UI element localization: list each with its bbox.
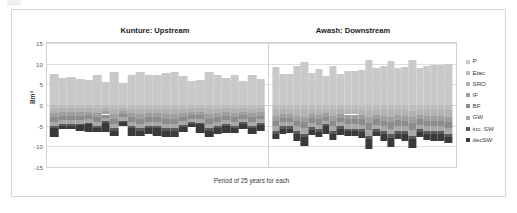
legend-item[interactable]: BF [466, 101, 514, 112]
bar-segment-decsw[interactable] [438, 134, 445, 140]
bar-segment-p[interactable] [402, 67, 409, 105]
bar-slot[interactable] [344, 43, 351, 167]
bar-segment-decsw[interactable] [387, 138, 394, 147]
bar-segment-p[interactable] [110, 72, 119, 105]
bar-slot[interactable] [248, 43, 257, 167]
bar-segment-p[interactable] [196, 80, 205, 105]
bar-segment-decsw[interactable] [344, 131, 351, 136]
legend-item[interactable]: GW [466, 112, 514, 123]
bar-slot[interactable] [59, 43, 68, 167]
bar-segment-p[interactable] [344, 71, 351, 105]
bar-segment-p[interactable] [205, 72, 214, 105]
bar-slot[interactable] [205, 43, 214, 167]
bar-slot[interactable] [170, 43, 179, 167]
legend-item[interactable]: P [466, 56, 514, 67]
bar-segment-decsw[interactable] [330, 134, 337, 140]
bar-segment-decsw[interactable] [110, 131, 119, 136]
bar-segment-p[interactable] [127, 75, 136, 105]
bar-slot[interactable] [351, 43, 358, 167]
bar-segment-decsw[interactable] [205, 131, 214, 138]
bar-segment-p[interactable] [76, 79, 85, 105]
bar-segment-p[interactable] [445, 64, 452, 105]
bar-slot[interactable] [188, 43, 197, 167]
bar-segment-p[interactable] [438, 65, 445, 105]
bar-segment-decsw[interactable] [445, 137, 452, 144]
bar-segment-p[interactable] [119, 83, 128, 105]
bar-segment-decsw[interactable] [196, 124, 205, 133]
bar-segment-decsw[interactable] [127, 128, 136, 135]
bar-segment-p[interactable] [423, 66, 430, 105]
bar-slot[interactable] [423, 43, 430, 167]
bar-slot[interactable] [272, 43, 279, 167]
bar-segment-p[interactable] [93, 75, 102, 105]
legend-item[interactable]: decSW [466, 134, 514, 145]
bar-segment-p[interactable] [409, 60, 416, 105]
bar-segment-p[interactable] [358, 70, 365, 105]
bar-segment-decsw[interactable] [162, 131, 171, 138]
bar-segment-p[interactable] [84, 80, 93, 105]
bar-segment-p[interactable] [162, 73, 171, 105]
bar-segment-p[interactable] [136, 72, 145, 105]
bar-segment-decsw[interactable] [373, 132, 380, 136]
bar-segment-decsw[interactable] [93, 128, 102, 132]
bar-segment-p[interactable] [50, 74, 59, 105]
bar-slot[interactable] [136, 43, 145, 167]
bar-segment-p[interactable] [366, 60, 373, 105]
legend-item[interactable]: inc. SW [466, 123, 514, 134]
bar-segment-p[interactable] [416, 68, 423, 105]
bar-segment-p[interactable] [315, 69, 322, 105]
bar-segment-p[interactable] [351, 71, 358, 105]
bar-slot[interactable] [416, 43, 423, 167]
bar-segment-p[interactable] [322, 76, 329, 105]
bar-segment-p[interactable] [294, 66, 301, 105]
bar-slot[interactable] [222, 43, 231, 167]
bar-segment-p[interactable] [279, 74, 286, 105]
bar-segment-decsw[interactable] [416, 132, 423, 137]
bar-segment-decsw[interactable] [188, 124, 197, 128]
bar-segment-p[interactable] [145, 75, 154, 105]
bar-segment-p[interactable] [330, 66, 337, 105]
bar-segment-p[interactable] [248, 75, 257, 105]
bar-segment-p[interactable] [179, 76, 188, 105]
bar-segment-p[interactable] [256, 79, 265, 105]
bar-slot[interactable] [145, 43, 154, 167]
bar-segment-decsw[interactable] [430, 134, 437, 140]
bar-segment-decsw[interactable] [358, 132, 365, 138]
bar-slot[interactable] [294, 43, 301, 167]
bar-slot[interactable] [387, 43, 394, 167]
bar-segment-p[interactable] [394, 68, 401, 105]
bar-segment-sro[interactable] [409, 111, 416, 118]
bar-slot[interactable] [213, 43, 222, 167]
bar-segment-p[interactable] [213, 75, 222, 105]
bar-segment-bf[interactable] [366, 123, 373, 130]
bar-slot[interactable] [322, 43, 329, 167]
bar-segment-p[interactable] [337, 74, 344, 105]
legend-item[interactable]: IF [466, 90, 514, 101]
bar-segment-p[interactable] [286, 74, 293, 105]
bar-segment-decsw[interactable] [322, 126, 329, 134]
bar-segment-decsw[interactable] [366, 139, 373, 149]
bar-slot[interactable] [196, 43, 205, 167]
bar-segment-p[interactable] [380, 66, 387, 105]
bar-segment-decsw[interactable] [170, 131, 179, 138]
bar-segment-decsw[interactable] [256, 125, 265, 131]
bar-slot[interactable] [409, 43, 416, 167]
bar-segment-decsw[interactable] [145, 128, 154, 134]
bar-segment-decsw[interactable] [230, 128, 239, 133]
bar-segment-decsw[interactable] [59, 126, 68, 130]
bar-segment-decsw[interactable] [402, 134, 409, 140]
bar-segment-p[interactable] [170, 72, 179, 105]
bar-segment-p[interactable] [373, 68, 380, 105]
bar-segment-decsw[interactable] [394, 134, 401, 140]
bar-slot[interactable] [256, 43, 265, 167]
bar-slot[interactable] [153, 43, 162, 167]
bar-segment-decsw[interactable] [423, 134, 430, 140]
bar-slot[interactable] [286, 43, 293, 167]
bar-segment-decsw[interactable] [239, 124, 248, 129]
bar-segment-p[interactable] [188, 81, 197, 105]
bar-segment-p[interactable] [387, 61, 394, 105]
bar-segment-p[interactable] [430, 65, 437, 105]
bar-slot[interactable] [76, 43, 85, 167]
bar-slot[interactable] [366, 43, 373, 167]
bar-segment-decsw[interactable] [301, 137, 308, 147]
